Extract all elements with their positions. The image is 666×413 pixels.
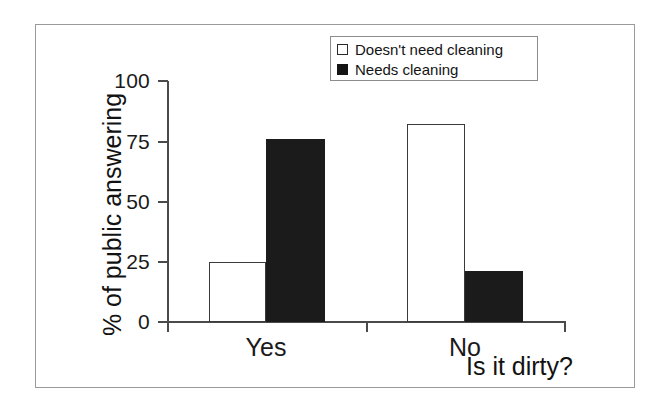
legend-item-doesnt-need-cleaning: Doesn't need cleaning xyxy=(337,40,531,59)
legend-label-doesnt-need-cleaning: Doesn't need cleaning xyxy=(355,42,503,57)
y-tick-100: 100 xyxy=(158,80,168,82)
filled-square-icon xyxy=(337,64,348,75)
bar-no-doesnt-need-cleaning xyxy=(407,124,465,322)
y-tick-25: 25 xyxy=(158,261,168,263)
y-tick-label-75: 75 xyxy=(126,130,150,154)
bar-yes-doesnt-need-cleaning xyxy=(209,262,266,322)
x-tick-mid xyxy=(366,322,368,332)
x-axis-title: Is it dirty? xyxy=(466,352,573,381)
legend-item-needs-cleaning: Needs cleaning xyxy=(337,60,531,79)
bar-yes-needs-cleaning xyxy=(266,139,325,322)
y-tick-75: 75 xyxy=(158,141,168,143)
open-square-icon xyxy=(337,44,348,55)
y-axis-title: % of public answering xyxy=(98,65,127,365)
bar-chart-figure: 100 75 50 25 0 Yes No % of public answer… xyxy=(0,0,666,413)
y-tick-50: 50 xyxy=(158,201,168,203)
x-category-label-yes: Yes xyxy=(206,333,326,362)
y-tick-label-25: 25 xyxy=(126,250,150,274)
y-tick-label-0: 0 xyxy=(138,310,150,334)
bar-no-needs-cleaning xyxy=(465,271,523,322)
x-tick-end xyxy=(564,322,566,332)
y-tick-label-50: 50 xyxy=(126,190,150,214)
legend-label-needs-cleaning: Needs cleaning xyxy=(355,62,458,77)
legend: Doesn't need cleaning Needs cleaning xyxy=(330,36,538,81)
plot-area: 100 75 50 25 0 Yes No % of public answer… xyxy=(0,0,666,413)
x-tick-start xyxy=(167,322,169,332)
